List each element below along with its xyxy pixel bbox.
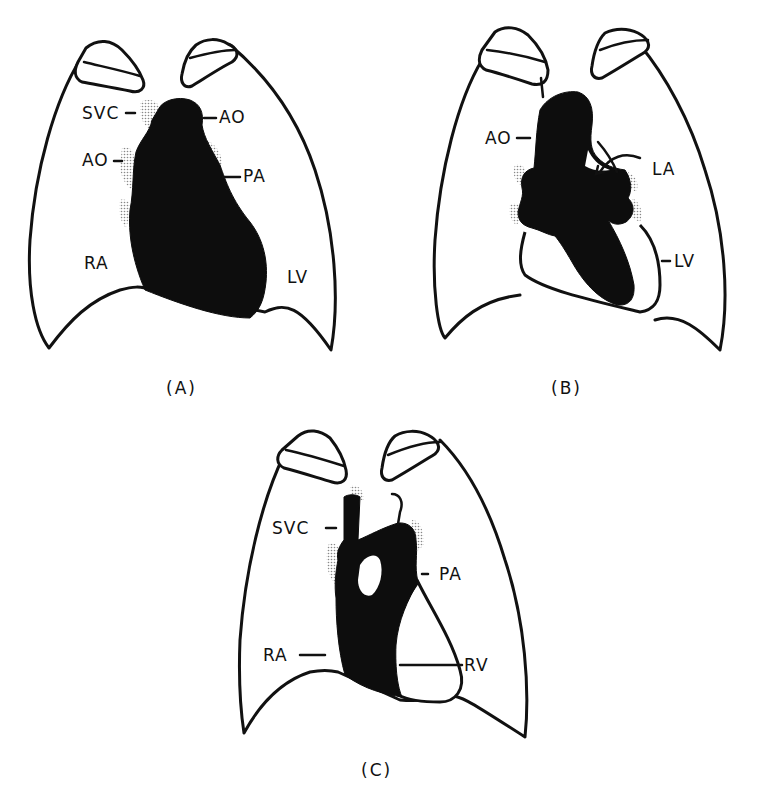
label-ra: RA: [84, 253, 109, 273]
right-clavicle: [381, 431, 438, 480]
label-ao-right: AO: [219, 107, 246, 127]
caption-a: (A): [166, 378, 197, 398]
panel-a: SVC AO AO PA RA LV (A): [29, 40, 335, 398]
label-ao-left: AO: [82, 150, 109, 170]
caption-c: (C): [361, 760, 392, 780]
label-lv: LV: [674, 251, 695, 271]
left-clavicle: [479, 28, 548, 85]
label-pa: PA: [439, 564, 462, 584]
label-svc: SVC: [82, 103, 119, 123]
caption-b: (B): [551, 378, 582, 398]
right-clavicle: [591, 29, 648, 78]
label-la: LA: [652, 159, 676, 179]
label-lv: LV: [287, 267, 308, 287]
left-clavicle: [75, 41, 143, 91]
label-svc: SVC: [272, 518, 309, 538]
right-clavicle: [181, 40, 236, 87]
label-ra: RA: [263, 645, 288, 665]
label-pa: PA: [243, 166, 266, 186]
label-ao: AO: [485, 128, 512, 148]
panel-b: AO LA LV (B): [434, 28, 725, 398]
cardiac-silhouette: [130, 98, 267, 318]
figure-canvas: SVC AO AO PA RA LV (A) AO: [0, 0, 757, 798]
label-rv: RV: [464, 655, 489, 675]
panel-c: SVC PA RA RV (C): [239, 431, 526, 780]
